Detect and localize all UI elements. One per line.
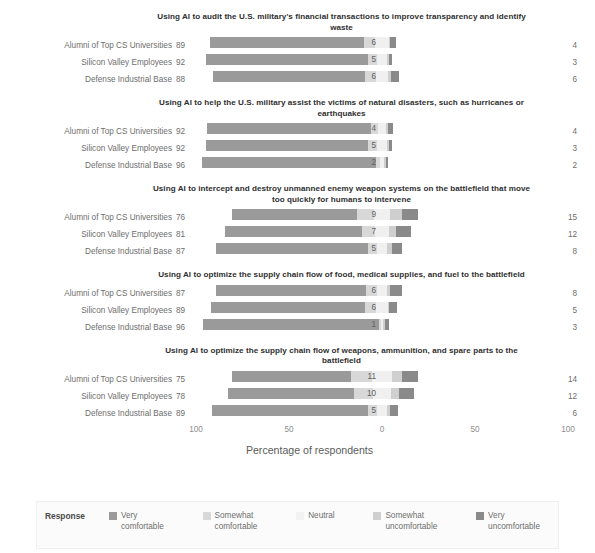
bar-segment-Neutral: [377, 140, 386, 151]
bar-segment-Very-comfortable: [225, 226, 363, 237]
bar-segment-value-label: 6: [360, 71, 376, 82]
legend-swatch-icon: [296, 512, 304, 520]
bar-segment-Somewhat-uncomfortable: [390, 209, 401, 220]
chart-row: Alumni of Top CS Universities751411: [0, 371, 595, 388]
legend-item[interactable]: Somewhat comfortable: [203, 511, 258, 532]
x-axis-tick: 100: [561, 422, 575, 438]
bar-segment-value-label: 2: [360, 157, 376, 168]
legend-item[interactable]: Very comfortable: [109, 511, 164, 532]
bar-segment-Very-uncomfortable: [389, 302, 396, 313]
bar-segment-Somewhat-comfortable: [376, 157, 380, 168]
row-plot: 5: [196, 243, 568, 260]
row-group-label: Alumni of Top CS Universities: [0, 123, 172, 140]
row-plot: 5: [196, 54, 568, 71]
bar-segment-Very-uncomfortable: [402, 209, 419, 220]
bar-segment-Very-comfortable: [206, 140, 368, 151]
row-group-label: Silicon Valley Employees: [0, 226, 172, 243]
row-plot: 6: [196, 71, 568, 88]
bar-segment-value-label: 6: [360, 285, 376, 296]
legend-item[interactable]: Neutral: [296, 511, 334, 532]
row-plot: 11: [196, 371, 568, 388]
legend-item-list: Very comfortableSomewhat comfortableNeut…: [109, 511, 552, 532]
likert-chart: Using AI to audit the U.S. military's fi…: [0, 12, 595, 553]
chart-row: Defense Industrial Base8866: [0, 71, 595, 88]
row-comfortable-total: 96: [176, 157, 198, 174]
chart-row: Alumni of Top CS Universities8946: [0, 37, 595, 54]
x-axis-tick: 100: [189, 422, 203, 438]
chart-row: Defense Industrial Base9622: [0, 157, 595, 174]
bar-segment-Very-uncomfortable: [391, 71, 398, 82]
bar-segment-value-label: 6: [360, 37, 376, 48]
panel-title: Using AI to audit the U.S. military's fi…: [0, 12, 595, 33]
chart-row: Silicon Valley Employees9235: [0, 140, 595, 157]
bar-segment-Somewhat-uncomfortable: [389, 226, 396, 237]
bar-segment-Very-comfortable: [211, 302, 365, 313]
bar-segment-Very-comfortable: [232, 371, 351, 382]
panel-rows: Alumni of Top CS Universities76159Silico…: [0, 209, 595, 260]
row-comfortable-total: 89: [176, 302, 198, 319]
legend-item[interactable]: Somewhat uncomfortable: [373, 511, 437, 532]
bar-segment-Very-comfortable: [210, 37, 364, 48]
row-group-label: Alumni of Top CS Universities: [0, 37, 172, 54]
legend-label: Somewhat uncomfortable: [385, 511, 437, 532]
chart-row: Alumni of Top CS Universities8786: [0, 285, 595, 302]
row-plot: 4: [196, 123, 568, 140]
legend-title: Response: [45, 511, 109, 521]
row-plot: 7: [196, 226, 568, 243]
row-comfortable-total: 92: [176, 54, 198, 71]
legend-swatch-icon: [373, 512, 381, 520]
x-axis-tick: 50: [284, 422, 293, 438]
row-plot: 5: [196, 405, 568, 422]
x-axis-title: Percentage of respondents: [0, 444, 595, 456]
chart-row: Silicon Valley Employees8956: [0, 302, 595, 319]
row-comfortable-total: 76: [176, 209, 198, 226]
bar-segment-Very-uncomfortable: [385, 319, 389, 330]
bar-segment-Very-comfortable: [212, 405, 368, 416]
panel-title: Using AI to intercept and destroy unmann…: [0, 184, 595, 205]
bar-segment-value-label: 5: [360, 405, 376, 416]
chart-row: Defense Industrial Base9631: [0, 319, 595, 336]
panel-rows: Alumni of Top CS Universities9244Silicon…: [0, 123, 595, 174]
row-plot: 9: [196, 209, 568, 226]
chart-row: Defense Industrial Base8965: [0, 405, 595, 422]
row-plot: 10: [196, 388, 568, 405]
bar-segment-Very-comfortable: [216, 243, 369, 254]
bar-segment-Somewhat-uncomfortable: [392, 371, 401, 382]
row-group-label: Silicon Valley Employees: [0, 302, 172, 319]
row-group-label: Defense Industrial Base: [0, 319, 172, 336]
row-comfortable-total: 92: [176, 140, 198, 157]
bar-segment-value-label: 5: [360, 140, 376, 151]
legend-item[interactable]: Very uncomfortable: [476, 511, 540, 532]
chart-row: Defense Industrial Base8785: [0, 243, 595, 260]
legend-swatch-icon: [476, 512, 484, 520]
bar-segment-value-label: 4: [360, 123, 376, 134]
row-comfortable-total: 96: [176, 319, 198, 336]
panel-title: Using AI to optimize the supply chain fl…: [0, 346, 595, 367]
bar-segment-Very-uncomfortable: [399, 388, 414, 399]
bar-segment-Neutral: [377, 405, 386, 416]
bar-segment-Neutral: [377, 54, 386, 65]
panel-rows: Alumni of Top CS Universities8946Silicon…: [0, 37, 595, 88]
bar-segment-Very-uncomfortable: [389, 140, 393, 151]
chart-row: Silicon Valley Employees781210: [0, 388, 595, 405]
row-comfortable-total: 89: [176, 405, 198, 422]
bar-segment-value-label: 1: [360, 319, 376, 330]
bar-segment-Very-comfortable: [207, 123, 371, 134]
legend-swatch-icon: [203, 512, 211, 520]
x-axis-tick: 50: [470, 422, 479, 438]
legend-label: Somewhat comfortable: [215, 511, 258, 532]
bar-segment-value-label: 11: [360, 371, 376, 382]
bar-segment-Very-uncomfortable: [396, 226, 411, 237]
bar-segment-Very-uncomfortable: [390, 285, 401, 296]
chart-row: Silicon Valley Employees9235: [0, 54, 595, 71]
bar-segment-Neutral: [374, 209, 391, 220]
bar-segment-value-label: 7: [360, 226, 376, 237]
row-group-label: Defense Industrial Base: [0, 243, 172, 260]
bar-segment-value-label: 5: [360, 243, 376, 254]
panel-title: Using AI to optimize the supply chain fl…: [0, 270, 595, 281]
row-group-label: Silicon Valley Employees: [0, 54, 172, 71]
bar-segment-Neutral: [376, 71, 387, 82]
legend: Response Very comfortableSomewhat comfor…: [36, 501, 559, 549]
row-comfortable-total: 88: [176, 71, 198, 88]
bar-segment-Neutral: [375, 37, 388, 48]
